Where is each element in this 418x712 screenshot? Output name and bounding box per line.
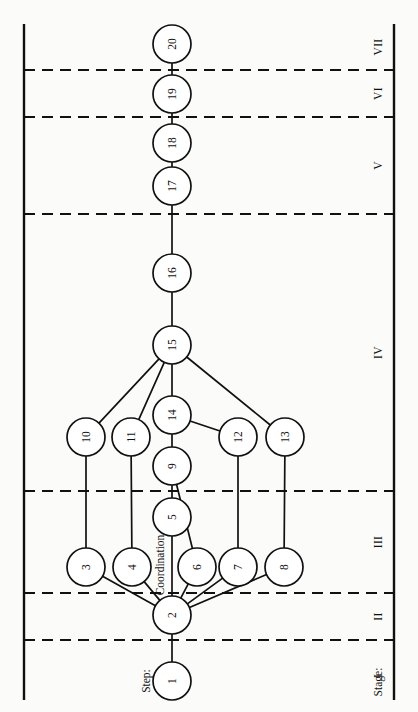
stage-label-IV: IV — [372, 346, 384, 359]
stage-axis-caption: Stage: — [372, 668, 385, 697]
node-label-9: 9 — [166, 463, 178, 469]
edge-10-15 — [99, 359, 159, 423]
node-label-8: 8 — [278, 564, 290, 570]
node-label-5: 5 — [166, 514, 178, 520]
stage-label-V: V — [372, 161, 384, 170]
annotations-group: Coordination — [154, 534, 166, 595]
node-6[interactable]: 6 — [178, 548, 216, 586]
stage-label-III: III — [372, 536, 384, 548]
stage-labels-group: IIIIIIIVVVIVII — [372, 39, 384, 679]
node-3[interactable]: 3 — [67, 548, 105, 586]
edge-8-13 — [284, 456, 285, 548]
node-label-7: 7 — [232, 564, 244, 570]
node-18[interactable]: 18 — [153, 124, 191, 162]
node-9[interactable]: 9 — [153, 447, 191, 485]
edge-13-15 — [187, 357, 271, 425]
node-12[interactable]: 12 — [219, 418, 257, 456]
node-label-20: 20 — [166, 38, 178, 50]
step-axis-caption: Step: — [140, 669, 153, 693]
node-13[interactable]: 13 — [266, 418, 304, 456]
edge-4-11 — [131, 456, 132, 548]
node-11[interactable]: 11 — [112, 418, 150, 456]
node-label-2: 2 — [166, 612, 178, 618]
stage-label-II: II — [372, 612, 384, 620]
node-1[interactable]: 1 — [153, 662, 191, 700]
node-label-18: 18 — [166, 137, 178, 149]
node-label-12: 12 — [232, 431, 244, 443]
node-label-10: 10 — [80, 431, 92, 443]
edge-12-14 — [190, 421, 220, 431]
diagram-canvas: 1234567891011121314151617181920 Coordina… — [0, 0, 418, 712]
edge-2-6 — [181, 584, 188, 598]
node-8[interactable]: 8 — [265, 548, 303, 586]
flowchart-figure: 1234567891011121314151617181920 Coordina… — [0, 0, 418, 712]
node-label-17: 17 — [166, 180, 178, 192]
node-label-4: 4 — [126, 564, 138, 570]
node-14[interactable]: 14 — [153, 396, 191, 434]
node-label-15: 15 — [166, 339, 178, 351]
node-2[interactable]: 2 — [153, 596, 191, 634]
node-label-3: 3 — [80, 564, 92, 570]
node-4[interactable]: 4 — [113, 548, 151, 586]
node-label-14: 14 — [166, 409, 178, 421]
node-20[interactable]: 20 — [153, 25, 191, 63]
node-10[interactable]: 10 — [67, 418, 105, 456]
node-16[interactable]: 16 — [153, 254, 191, 292]
node-label-6: 6 — [191, 564, 203, 570]
stage-label-VII: VII — [372, 39, 384, 56]
node-19[interactable]: 19 — [153, 75, 191, 113]
nodes-group: 1234567891011121314151617181920 — [67, 25, 304, 700]
node-label-11: 11 — [125, 431, 137, 442]
node-15[interactable]: 15 — [153, 326, 191, 364]
node-label-1: 1 — [166, 678, 178, 684]
node-label-13: 13 — [279, 431, 291, 443]
node-7[interactable]: 7 — [219, 548, 257, 586]
node-17[interactable]: 17 — [153, 167, 191, 205]
stage-label-VI: VI — [372, 87, 384, 100]
node-label-16: 16 — [166, 267, 178, 279]
node-5[interactable]: 5 — [153, 498, 191, 536]
edge-annotation-coordination: Coordination — [154, 534, 166, 595]
node-label-19: 19 — [166, 88, 178, 100]
